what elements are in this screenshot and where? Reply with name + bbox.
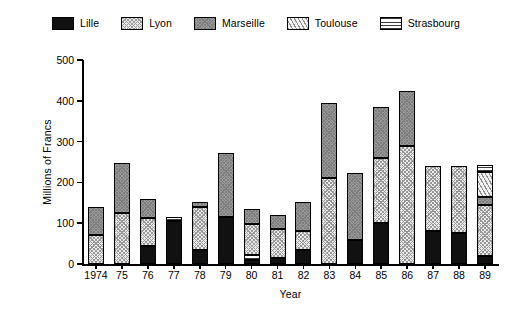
bar-segment-marseille-79: [218, 153, 234, 217]
x-axis-tick-label: 84: [350, 270, 362, 281]
bar-chart: LilleLyonMarseilleToulouseStrasbourg Mil…: [0, 0, 512, 316]
y-axis-tick-label: 300: [56, 136, 74, 147]
x-axis-line: [82, 264, 499, 266]
bar-segment-marseille-85: [373, 107, 389, 158]
x-axis-tick-label: 79: [220, 270, 232, 281]
bar-segment-lyon-89: [477, 205, 493, 256]
y-axis-tick-label: 0: [68, 259, 74, 270]
bar-segment-toulouse-89: [477, 172, 493, 196]
x-axis-tick-label: 78: [194, 270, 206, 281]
bar-segment-marseille-84: [347, 173, 363, 240]
x-axis-tick-label: 75: [116, 270, 128, 281]
bar-segment-lille-81: [270, 258, 286, 264]
bar-segment-lille-88: [451, 233, 467, 264]
bar-segment-lyon-81: [270, 229, 286, 258]
legend-swatch-marseille-icon: [194, 17, 216, 30]
bar-segment-strasbourg-77: [166, 217, 182, 221]
bar-segment-marseille-1974: [88, 207, 104, 235]
bar-81: [270, 215, 286, 264]
x-axis-tick-label: 86: [401, 270, 413, 281]
bar-segment-strasbourg-80: [244, 255, 260, 260]
x-axis-tick-label: 85: [375, 270, 387, 281]
bar-83: [321, 103, 337, 264]
legend-swatch-strasbourg-icon: [380, 17, 402, 30]
y-axis-title: Millions of Francs: [4, 60, 89, 264]
legend-label-marseille: Marseille: [222, 17, 265, 29]
bar-segment-marseille-75: [114, 163, 130, 213]
y-axis-tick: [77, 59, 83, 61]
y-axis-tick: [77, 141, 83, 143]
legend-entry-strasbourg: Strasbourg: [380, 17, 460, 30]
bar-segment-lyon-75: [114, 213, 130, 264]
bar-segment-marseille-89: [477, 197, 493, 205]
bar-88: [451, 166, 467, 264]
y-axis-tick: [77, 263, 83, 265]
legend-swatch-lyon-icon: [121, 17, 143, 30]
bar-segment-lille-87: [425, 231, 441, 264]
bar-80: [244, 209, 260, 264]
bar-segment-marseille-83: [321, 103, 337, 178]
bar-segment-marseille-82: [295, 202, 311, 231]
legend-entry-lyon: Lyon: [121, 17, 172, 30]
y-axis-title-text: Millions of Francs: [41, 119, 53, 204]
bar-segment-lyon-86: [399, 146, 415, 264]
bar-segment-lille-76: [140, 246, 156, 264]
x-axis-title: Year: [83, 288, 498, 300]
bar-segment-lyon-88: [451, 166, 467, 233]
legend-label-strasbourg: Strasbourg: [408, 17, 460, 29]
bar-segment-lille-84: [347, 240, 363, 264]
legend-entry-toulouse: Toulouse: [287, 17, 358, 30]
bar-segment-lyon-78: [192, 207, 208, 250]
bar-segment-lyon-80: [244, 224, 260, 255]
bar-segment-lyon-83: [321, 178, 337, 264]
bar-segment-marseille-80: [244, 209, 260, 225]
x-axis-tick-label: 87: [427, 270, 439, 281]
y-axis-tick-label: 200: [56, 177, 74, 188]
bar-82: [295, 202, 311, 264]
bar-79: [218, 153, 234, 264]
bar-85: [373, 107, 389, 264]
y-axis-tick-label: 100: [56, 218, 74, 229]
legend-swatch-lille-icon: [52, 17, 74, 30]
bar-78: [192, 202, 208, 264]
bar-87: [425, 166, 441, 264]
y-axis-line: [82, 60, 84, 264]
x-axis-tick-label: 80: [246, 270, 258, 281]
bar-segment-marseille-81: [270, 215, 286, 229]
legend-label-lyon: Lyon: [149, 17, 172, 29]
bar-segment-lyon-1974: [88, 235, 104, 264]
bar-86: [399, 91, 415, 264]
x-axis-tick-label: 89: [479, 270, 491, 281]
bar-segment-lyon-76: [140, 218, 156, 246]
bar-77: [166, 217, 182, 264]
bar-segment-strasbourg-89: [477, 165, 493, 172]
bar-segment-lille-85: [373, 223, 389, 264]
y-axis-tick: [77, 222, 83, 224]
legend-label-toulouse: Toulouse: [315, 17, 358, 29]
bar-segment-marseille-86: [399, 91, 415, 146]
bar-segment-marseille-78: [192, 202, 208, 207]
legend-label-lille: Lille: [80, 17, 99, 29]
bar-84: [347, 173, 363, 264]
x-axis-tick-label: 88: [453, 270, 465, 281]
bar-76: [140, 199, 156, 264]
bar-segment-lille-89: [477, 256, 493, 264]
x-axis-tick-label: 77: [168, 270, 180, 281]
x-axis-tick-label: 76: [142, 270, 154, 281]
x-axis-tick-label: 82: [298, 270, 310, 281]
bar-segment-lyon-85: [373, 158, 389, 223]
bar-89: [477, 165, 493, 264]
x-axis-tick-label: 83: [324, 270, 336, 281]
plot-area: 0100200300400500197475767778798081828384…: [83, 60, 498, 264]
chart-legend: LilleLyonMarseilleToulouseStrasbourg: [0, 13, 512, 33]
x-axis-tick-label: 1974: [84, 270, 107, 281]
legend-entry-lille: Lille: [52, 17, 99, 30]
bar-1974: [88, 207, 104, 264]
x-axis-tick-label: 81: [272, 270, 284, 281]
y-axis-tick: [77, 182, 83, 184]
bar-75: [114, 163, 130, 264]
legend-entry-marseille: Marseille: [194, 17, 265, 30]
y-axis-tick-label: 500: [56, 55, 74, 66]
bar-segment-lyon-82: [295, 231, 311, 249]
bar-segment-lille-78: [192, 250, 208, 264]
